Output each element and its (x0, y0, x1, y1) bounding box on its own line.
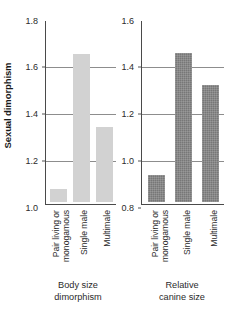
panel-caption-body-size: Body size dimorphism (38, 279, 118, 303)
x-category-line: monogamous (60, 210, 70, 262)
y-tick-label: 1.4 (25, 109, 38, 119)
bar-single-male (175, 53, 192, 203)
y-tick-label: 1.8 (25, 16, 38, 26)
x-category-labels-body: Pair living or monogamous Single male Mu… (46, 210, 117, 276)
y-axis-title: Sexual dimorphism (0, 0, 16, 210)
x-category-line: Multimale (208, 210, 218, 247)
x-category-pair-living-monogamous: Pair living or monogamous (150, 210, 167, 276)
x-category-single-male: Single male (177, 210, 194, 276)
bar-chart-figure: Sexual dimorphism 1.0 1.2 1.4 1.6 1.8 (0, 0, 230, 314)
y-tick-label: 1.4 (121, 62, 134, 72)
y-tick-labels-body: 1.0 1.2 1.4 1.6 1.8 (16, 18, 42, 208)
plot-area-wrapper-body: 1.0 1.2 1.4 1.6 1.8 (16, 18, 116, 208)
y-axis-title-text: Sexual dimorphism (3, 62, 14, 148)
y-tick-label: 1.6 (121, 16, 134, 26)
x-category-pair-living-monogamous: Pair living or monogamous (51, 210, 68, 276)
y-tick-mark (138, 208, 141, 209)
y-tick-label: 0.8 (121, 203, 134, 213)
bar-pair-living-monogamous (50, 189, 67, 203)
panel-caption-line: Relative (138, 279, 226, 291)
bar-single-male (73, 54, 90, 202)
bar-group-canine (144, 21, 224, 202)
bar-multimale (202, 85, 219, 202)
bar-group-body (48, 21, 116, 202)
x-category-line: Multimale (101, 210, 111, 247)
plot-area-wrapper-canine: 0.8 1.0 1.2 1.4 1.6 (112, 18, 224, 208)
y-tick-label: 1.2 (121, 109, 134, 119)
y-tick-labels-canine: 0.8 1.0 1.2 1.4 1.6 (112, 18, 138, 208)
plot-area-canine (141, 21, 224, 205)
panel-relative-canine-size: 0.8 1.0 1.2 1.4 1.6 (112, 0, 230, 314)
bar-multimale (96, 127, 113, 203)
x-category-line: Single male (181, 210, 191, 255)
bar-pair-living-monogamous (148, 175, 165, 203)
y-tick-label: 1.0 (121, 156, 134, 166)
y-tick-label: 1.2 (25, 156, 38, 166)
x-category-line: monogamous (159, 210, 169, 262)
plot-area-body (45, 21, 116, 205)
panel-caption-relative-canine-size: Relative canine size (138, 279, 226, 303)
x-category-single-male: Single male (74, 210, 91, 276)
x-category-line: Single male (78, 210, 88, 255)
panel-caption-line: Body size (38, 279, 118, 291)
x-category-line: Pair living or (149, 210, 159, 257)
y-tick-label: 1.0 (25, 203, 38, 213)
y-tick-label: 1.6 (25, 62, 38, 72)
panel-body-size-dimorphism: 1.0 1.2 1.4 1.6 1.8 (16, 0, 116, 314)
panel-caption-line: dimorphism (38, 291, 118, 303)
x-category-labels-canine: Pair living or monogamous Single male Mu… (142, 210, 225, 276)
panel-caption-line: canine size (138, 291, 226, 303)
x-category-multimale: Multimale (204, 210, 221, 276)
x-category-line: Pair living or (50, 210, 60, 257)
